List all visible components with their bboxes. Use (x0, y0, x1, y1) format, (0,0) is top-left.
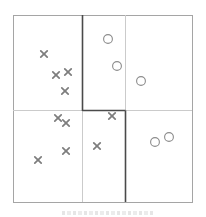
circle-marker (137, 77, 146, 86)
outer-border (14, 16, 193, 203)
figure-svg (0, 0, 206, 217)
circle-marker (104, 35, 113, 44)
circle-marker (165, 133, 174, 142)
cropped-caption-remnant (62, 211, 153, 215)
figure-canvas (0, 0, 206, 217)
circle-marker (151, 138, 160, 147)
circle-marker (113, 62, 122, 71)
